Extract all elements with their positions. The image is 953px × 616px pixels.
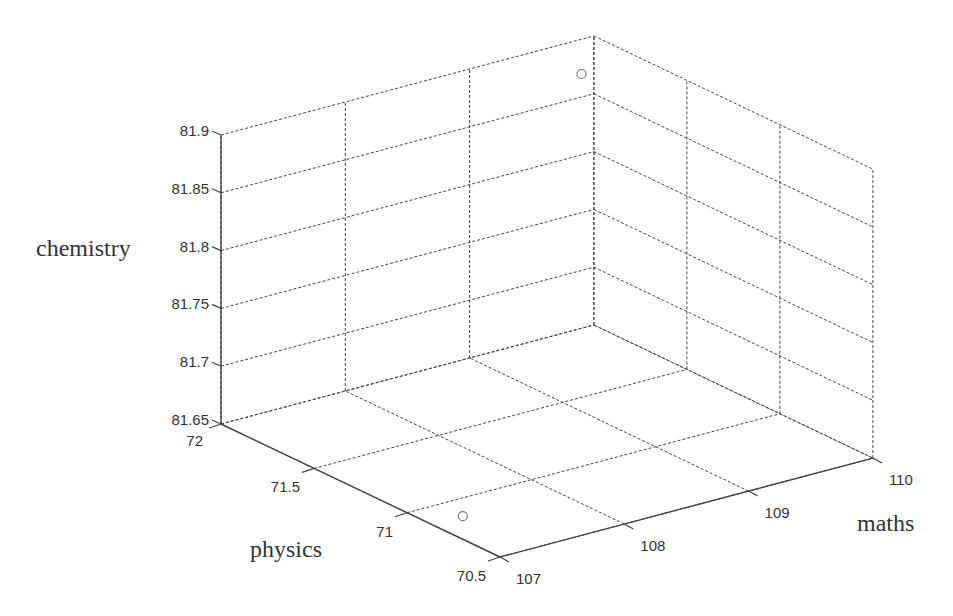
axes (209, 131, 882, 562)
x-axis-line (500, 458, 873, 557)
x-tick (873, 458, 882, 463)
grid-line-z (221, 94, 594, 193)
z-tick (212, 304, 221, 308)
y-axis-title: physics (250, 536, 322, 562)
data-point-marker (577, 70, 586, 79)
z-tick-label: 81.85 (171, 180, 209, 197)
grid-line-x (345, 391, 624, 524)
y-tick-label: 71 (376, 523, 393, 540)
x-tick (749, 491, 758, 496)
z-tick (212, 131, 221, 135)
y-tick (209, 424, 221, 428)
y-tick-label: 72 (186, 432, 203, 449)
z-tick (212, 247, 221, 251)
x-tick-label: 107 (516, 570, 541, 587)
z-tick-label: 81.8 (180, 238, 209, 255)
z-tick-label: 81.7 (180, 353, 209, 370)
grid-line-z (221, 36, 594, 135)
x-tick-label: 110 (889, 471, 913, 488)
grid-lines (221, 36, 873, 557)
y-tick-label: 70.5 (457, 567, 486, 584)
z-axis-title: chemistry (36, 235, 131, 261)
y-tick (395, 513, 407, 517)
x-tick-label: 109 (765, 504, 790, 521)
y-tick (488, 557, 500, 561)
y-tick (302, 468, 314, 472)
z-tick-label: 81.9 (180, 122, 209, 139)
tick-labels: 81.6581.781.7581.881.8581.970.57171.5721… (171, 122, 912, 587)
x-tick (624, 524, 633, 529)
z-tick (212, 420, 221, 424)
grid-line-z (221, 152, 594, 251)
z-tick-label: 81.75 (171, 295, 209, 312)
data-points (458, 70, 586, 521)
z-tick-label: 81.65 (171, 411, 209, 428)
z-tick (212, 189, 221, 193)
3d-scatter-chart: 81.6581.781.7581.881.8581.970.57171.5721… (0, 0, 953, 616)
grid-line-z (594, 267, 873, 400)
x-tick-label: 108 (640, 537, 665, 554)
grid-line-z (594, 152, 873, 285)
z-tick (212, 362, 221, 366)
grid-line-z (221, 209, 594, 308)
data-point-marker (458, 512, 467, 521)
grid-line-x (470, 358, 749, 491)
grid-line-z (594, 209, 873, 342)
grid-line-x (594, 325, 873, 458)
x-axis-title: maths (857, 510, 914, 536)
x-tick (500, 557, 509, 562)
grid-line-z (594, 36, 873, 169)
grid-line-z (221, 267, 594, 366)
y-tick-label: 71.5 (271, 478, 300, 495)
grid-line-z (594, 94, 873, 227)
